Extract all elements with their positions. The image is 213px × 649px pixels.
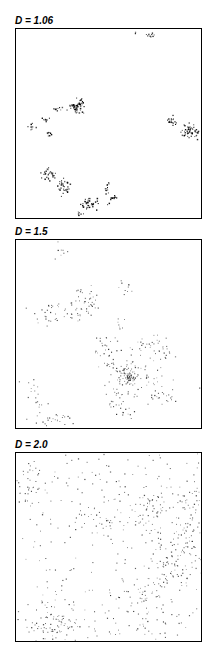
scatter-points-1 (16, 29, 202, 219)
panel-title-3: D = 2.0 (15, 440, 48, 450)
scatter-panel-2 (15, 239, 202, 429)
scatter-panel-3 (15, 452, 202, 642)
panel-title-1: D = 1.06 (15, 16, 53, 26)
scatter-points-2 (16, 240, 202, 429)
scatter-points-3 (16, 453, 202, 642)
scatter-panel-1 (15, 28, 202, 219)
panel-title-2: D = 1.5 (15, 227, 48, 237)
